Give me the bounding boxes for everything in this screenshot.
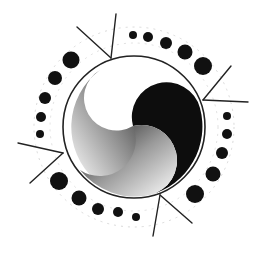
ray-line <box>18 143 63 153</box>
dot <box>160 37 172 49</box>
dot <box>63 52 80 69</box>
ray-line <box>160 195 192 223</box>
dot <box>216 147 228 159</box>
yin-yang-body <box>60 53 210 203</box>
dot <box>186 185 204 203</box>
dot <box>194 57 212 75</box>
dot <box>92 203 104 215</box>
dot <box>129 31 137 39</box>
dot <box>132 213 140 221</box>
yin-yang-emblem <box>0 0 262 268</box>
dot <box>222 129 232 139</box>
dot <box>178 45 193 60</box>
ray-line <box>153 195 160 236</box>
ray-line <box>203 100 248 102</box>
dot <box>50 172 68 190</box>
dot <box>36 130 44 138</box>
ray-line <box>111 14 116 58</box>
dot <box>143 32 153 42</box>
dot <box>48 71 62 85</box>
ray-line <box>77 27 111 58</box>
dot <box>36 112 46 122</box>
dot <box>206 167 221 182</box>
dot <box>39 92 51 104</box>
dot <box>113 207 123 217</box>
dot <box>223 112 231 120</box>
dot <box>72 191 87 206</box>
